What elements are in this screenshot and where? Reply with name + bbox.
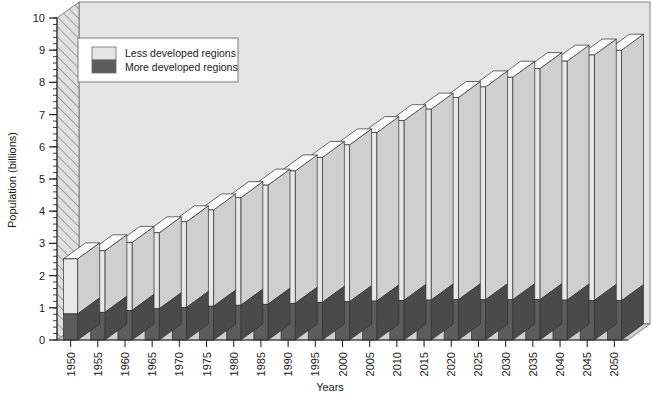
bar-side-face bbox=[295, 155, 317, 303]
bar-side-face bbox=[540, 53, 562, 300]
bar-front-face bbox=[64, 259, 78, 314]
x-tick-label: 1995 bbox=[309, 352, 321, 376]
y-tick-label: 5 bbox=[39, 173, 45, 185]
y-tick-label: 10 bbox=[33, 12, 45, 24]
bar-side-face bbox=[241, 182, 263, 306]
y-tick-label: 7 bbox=[39, 109, 45, 121]
x-tick-label: 1970 bbox=[173, 352, 185, 376]
bar-side-face bbox=[322, 141, 344, 302]
x-tick-label: 1975 bbox=[201, 352, 213, 376]
x-tick-label: 2000 bbox=[337, 352, 349, 376]
x-tick-label: 1955 bbox=[92, 352, 104, 376]
legend-swatch-more-developed bbox=[92, 60, 116, 73]
x-tick-label: 1980 bbox=[228, 352, 240, 376]
bar-side-face bbox=[268, 169, 290, 304]
x-tick-label: 1960 bbox=[119, 352, 131, 376]
y-tick-label: 9 bbox=[39, 44, 45, 56]
x-tick-label: 2010 bbox=[391, 352, 403, 376]
bar-side-face bbox=[404, 105, 426, 301]
x-tick-label: 1965 bbox=[146, 352, 158, 376]
legend-swatch-less-developed bbox=[92, 47, 116, 60]
bar-side-face bbox=[431, 93, 453, 300]
bar-side-face bbox=[377, 117, 399, 301]
y-tick-label: 1 bbox=[39, 302, 45, 314]
bar-side-face bbox=[486, 71, 508, 300]
legend: Less developed regionsMore developed reg… bbox=[78, 38, 238, 82]
x-tick-label: 1950 bbox=[65, 352, 77, 376]
y-tick-label: 3 bbox=[39, 237, 45, 249]
x-tick-label: 2050 bbox=[608, 352, 620, 376]
bar-side-face bbox=[214, 194, 236, 306]
chart-canvas: 012345678910 195019551960196519701975198… bbox=[0, 0, 653, 405]
x-tick-label: 2030 bbox=[500, 352, 512, 376]
legend-label-more-developed: More developed regions bbox=[125, 61, 238, 73]
bar-side-face bbox=[186, 206, 208, 308]
y-tick-label: 4 bbox=[39, 205, 45, 217]
y-axis-title: Population (billions) bbox=[6, 132, 18, 228]
x-tick-label: 1985 bbox=[255, 352, 267, 376]
x-tick-label: 2015 bbox=[418, 352, 430, 376]
bar-side-face bbox=[513, 61, 535, 300]
y-tick-label: 0 bbox=[39, 334, 45, 346]
bar-side-face bbox=[350, 129, 372, 302]
bar-side-face bbox=[594, 39, 616, 300]
bar-front-face bbox=[64, 314, 78, 340]
bar-side-face bbox=[458, 82, 480, 300]
x-tick-label: 2020 bbox=[445, 352, 457, 376]
y-tick-label: 6 bbox=[39, 141, 45, 153]
x-axis-title: Years bbox=[316, 381, 344, 393]
x-tick-label: 2035 bbox=[527, 352, 539, 376]
x-tick-label: 2045 bbox=[581, 352, 593, 376]
bar-side-face bbox=[567, 45, 589, 300]
x-tick-label: 2005 bbox=[364, 352, 376, 376]
x-tick-label: 2025 bbox=[472, 352, 484, 376]
bar-side-face bbox=[621, 34, 643, 301]
bar-column bbox=[64, 243, 100, 340]
y-tick-label: 8 bbox=[39, 76, 45, 88]
legend-label-less-developed: Less developed regions bbox=[125, 47, 236, 59]
population-projection-chart: 012345678910 195019551960196519701975198… bbox=[0, 0, 653, 405]
x-tick-label: 1990 bbox=[282, 352, 294, 376]
x-tick-label: 2040 bbox=[554, 352, 566, 376]
y-tick-label: 2 bbox=[39, 270, 45, 282]
